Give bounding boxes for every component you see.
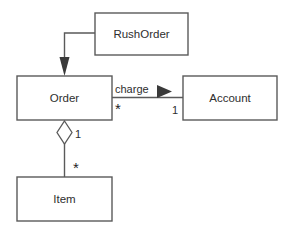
class-box-rushorder-label: RushOrder xyxy=(113,28,169,40)
class-box-item[interactable]: Item xyxy=(17,177,112,221)
class-box-account[interactable]: Account xyxy=(183,76,277,120)
class-box-order-label: Order xyxy=(50,92,80,104)
generalization-arrowhead-icon xyxy=(60,57,70,76)
navigation-triangle-icon xyxy=(157,85,172,98)
class-box-item-label: Item xyxy=(53,193,75,205)
class-box-rushorder[interactable]: RushOrder xyxy=(95,13,188,55)
multiplicity-account-end: 1 xyxy=(172,104,178,116)
generalization-elbow-line xyxy=(65,33,96,59)
relationship-order-aggregates-item[interactable] xyxy=(57,121,72,177)
relationship-rushorder-to-order[interactable] xyxy=(60,33,96,76)
aggregation-diamond-icon xyxy=(57,121,72,144)
uml-class-diagram-canvas: Account ============ --> RushOrder Order… xyxy=(0,0,286,230)
class-box-account-label: Account xyxy=(209,92,251,104)
class-box-order[interactable]: Order xyxy=(17,76,112,120)
association-label-charge: charge xyxy=(115,83,149,95)
multiplicity-order-end: * xyxy=(115,100,121,117)
multiplicity-aggregation-part: * xyxy=(73,159,79,176)
diagram-svg-surface: Account ============ --> RushOrder Order… xyxy=(0,0,286,230)
multiplicity-aggregation-whole: 1 xyxy=(75,128,81,140)
